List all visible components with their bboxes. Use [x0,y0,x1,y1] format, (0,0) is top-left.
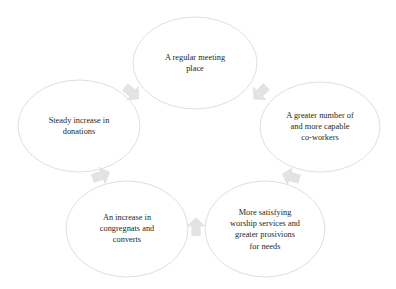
ellipse-group [18,17,380,277]
ellipse-co-workers[interactable] [260,82,380,172]
ellipse-meeting-place[interactable] [133,17,257,109]
ellipse-congregants[interactable] [66,181,188,277]
cycle-diagram: A regular meeting place A greater number… [0,0,396,289]
arrow-worship-to-congregants-icon [186,217,205,236]
cycle-diagram-canvas [0,0,396,289]
ellipse-worship-services[interactable] [205,181,325,277]
ellipse-donations[interactable] [18,80,140,172]
